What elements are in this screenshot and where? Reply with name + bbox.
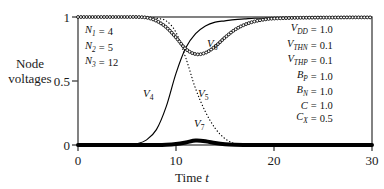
- annotation-right-value: 1.0: [319, 100, 334, 111]
- curve-label-subscript: 4: [150, 93, 154, 102]
- annotation-left-value: 4: [107, 24, 120, 40]
- annotation-right-row: BP=1.0: [286, 69, 334, 85]
- curve-label-v7: V7: [194, 118, 205, 133]
- annotation-right-row: CX=0.5: [286, 111, 334, 127]
- annotation-right-symbol: BP: [286, 69, 309, 85]
- annotation-left-equals: =: [97, 55, 107, 71]
- annotation-left-symbol: N1: [84, 24, 97, 40]
- annotation-block-left: N1=4N2=5N3=12: [84, 24, 119, 71]
- annotation-block-right: VDD=1.0VTHN=0.1VTHP=0.1BP=1.0BN=1.0C=1.0…: [286, 22, 334, 126]
- curve-label-subscript: 5: [205, 93, 209, 102]
- annotation-table-left: N1=4N2=5N3=12: [84, 24, 119, 71]
- curve-label-v4: V4: [143, 88, 154, 103]
- annotation-right-subscript: DD: [297, 27, 308, 36]
- annotation-right-row: VTHP=0.1: [286, 53, 334, 69]
- curve-label-v5: V5: [198, 88, 209, 103]
- annotation-right-value: 0.5: [319, 111, 334, 127]
- annotation-right-value: 0.1: [319, 38, 334, 54]
- curve-label-v6: V6: [207, 38, 218, 53]
- annotation-left-equals: =: [97, 40, 107, 56]
- annotation-right-equals: =: [309, 38, 319, 54]
- curve-label-subscript: 7: [201, 123, 205, 132]
- annotation-left-subscript: 3: [92, 60, 96, 69]
- annotation-right-value: 1.0: [319, 84, 334, 100]
- annotation-left-row: N1=4: [84, 24, 119, 40]
- annotation-right-subscript: THP: [294, 58, 308, 67]
- annotation-left-subscript: 1: [92, 29, 96, 38]
- annotation-left-row: N2=5: [84, 40, 119, 56]
- annotation-right-row: VDD=1.0: [286, 22, 334, 38]
- annotation-left-row: N3=12: [84, 55, 119, 71]
- annotation-right-value: 0.1: [319, 53, 334, 69]
- annotation-right-subscript: X: [303, 116, 308, 125]
- annotation-right-row: VTHN=0.1: [286, 38, 334, 54]
- curve-label-symbol: V: [198, 87, 205, 99]
- annotation-right-equals: =: [309, 69, 319, 85]
- annotation-right-equals: =: [309, 22, 319, 38]
- annotation-right-symbol: VTHN: [286, 38, 309, 54]
- annotation-right-symbol: VDD: [286, 22, 309, 38]
- annotation-right-symbol: CX: [286, 111, 309, 127]
- annotation-left-symbol: N2: [84, 40, 97, 56]
- figure-container: Node voltages Time t 1 0.5 0 0 10 20 30 …: [0, 0, 384, 189]
- annotation-left-value: 5: [107, 40, 120, 56]
- annotation-right-symbol: VTHP: [286, 53, 309, 69]
- annotation-left-symbol: N3: [84, 55, 97, 71]
- annotation-right-equals: =: [309, 100, 319, 111]
- annotation-right-subscript: N: [303, 89, 308, 98]
- annotation-right-value: 1.0: [319, 22, 334, 38]
- curve-label-symbol: V: [143, 87, 150, 99]
- annotation-right-row: BN=1.0: [286, 84, 334, 100]
- annotation-table-right: VDD=1.0VTHN=0.1VTHP=0.1BP=1.0BN=1.0C=1.0…: [286, 22, 334, 126]
- annotation-right-symbol: BN: [286, 84, 309, 100]
- annotation-left-value: 12: [107, 55, 120, 71]
- annotation-right-row: C=1.0: [286, 100, 334, 111]
- annotation-right-value: 1.0: [319, 69, 334, 85]
- annotation-right-equals: =: [309, 111, 319, 127]
- curve-label-subscript: 6: [214, 43, 218, 52]
- curve-label-symbol: V: [207, 37, 214, 49]
- annotation-left-equals: =: [97, 24, 107, 40]
- annotation-left-subscript: 2: [92, 45, 96, 54]
- annotation-right-symbol: C: [286, 100, 309, 111]
- curve-label-symbol: V: [194, 117, 201, 129]
- annotation-right-equals: =: [309, 53, 319, 69]
- annotation-right-subscript: P: [303, 74, 308, 83]
- annotation-right-equals: =: [309, 84, 319, 100]
- annotation-right-subscript: THN: [293, 43, 307, 52]
